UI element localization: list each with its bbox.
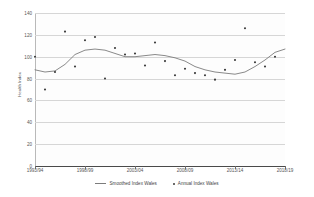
x-tick-mark <box>285 166 286 169</box>
legend-label-annual: Annual Index Wales <box>178 181 219 186</box>
smoothed-index-line <box>35 49 285 74</box>
chart-container: 020406080100120140 1993/941998/992003/04… <box>0 0 314 197</box>
annual-index-point <box>104 78 106 80</box>
annual-index-point <box>164 60 166 62</box>
annual-index-point <box>204 74 206 76</box>
annual-index-point <box>124 53 126 55</box>
dot-swatch-icon <box>173 183 175 185</box>
annual-index-point <box>154 41 156 43</box>
annual-index-point <box>144 64 146 66</box>
annual-index-point <box>234 59 236 61</box>
annual-index-point <box>254 61 256 63</box>
annual-index-point <box>214 79 216 81</box>
annual-index-point <box>94 36 96 38</box>
annual-index-point <box>264 66 266 68</box>
x-tick-mark <box>135 166 136 169</box>
annual-index-point <box>34 56 36 58</box>
annual-index-point <box>174 74 176 76</box>
x-tick-mark <box>35 166 36 169</box>
annual-index-point <box>184 68 186 70</box>
annual-index-point <box>84 39 86 41</box>
x-tick-mark <box>235 166 236 169</box>
annual-index-point <box>64 31 66 33</box>
legend-item-annual: Annual Index Wales <box>173 181 219 186</box>
x-tick-mark <box>85 166 86 169</box>
annual-index-point <box>54 71 56 73</box>
legend-item-smoothed: Smoothed Index Wales <box>95 181 156 186</box>
annual-index-point <box>274 56 276 58</box>
line-swatch-icon <box>95 183 106 184</box>
annual-index-point <box>134 52 136 54</box>
annual-index-point <box>44 88 46 90</box>
annual-index-point <box>74 66 76 68</box>
series-layer <box>0 0 314 197</box>
annual-index-point <box>224 69 226 71</box>
annual-index-point <box>244 27 246 29</box>
annual-index-point <box>114 47 116 49</box>
chart-legend: Smoothed Index Wales Annual Index Wales <box>0 181 314 186</box>
x-tick-mark <box>185 166 186 169</box>
legend-label-smoothed: Smoothed Index Wales <box>109 181 156 186</box>
annual-index-point <box>194 72 196 74</box>
